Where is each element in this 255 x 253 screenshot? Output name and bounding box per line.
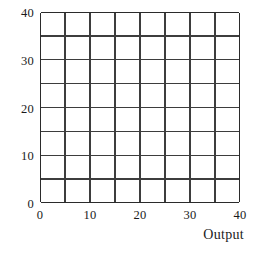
blank-grid-chart: 40 30 20 10 0 0 10 20 30 40 Output [0, 0, 255, 253]
x-axis-title: Output [0, 228, 244, 242]
x-tick-label-0: 0 [20, 209, 60, 222]
x-tick-label-20: 20 [120, 209, 160, 222]
grid-lines [40, 12, 240, 203]
x-tick-label-10: 10 [70, 209, 110, 222]
x-tick-label-40: 40 [220, 209, 255, 222]
plot-area [40, 12, 240, 203]
x-tick-label-30: 30 [170, 209, 210, 222]
y-tick-label-20: 20 [4, 103, 34, 116]
y-tick-label-10: 10 [4, 150, 34, 163]
y-tick-label-40: 40 [4, 7, 34, 20]
y-tick-label-30: 30 [4, 55, 34, 68]
